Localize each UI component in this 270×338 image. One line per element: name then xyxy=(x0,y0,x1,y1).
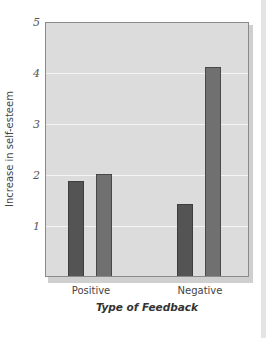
ytick-1: 1 xyxy=(28,220,40,233)
page-edge-strip xyxy=(261,0,266,338)
bar-positive-series2 xyxy=(96,174,112,276)
ytick-5: 5 xyxy=(28,16,40,29)
xtick-positive: Positive xyxy=(72,285,111,296)
ytick-4: 4 xyxy=(28,67,40,80)
ytick-3: 3 xyxy=(28,118,40,131)
x-axis-label: Type of Feedback xyxy=(96,301,198,313)
bar-negative-series2 xyxy=(205,67,221,276)
xtick-negative: Negative xyxy=(178,285,223,296)
bar-positive-series1 xyxy=(68,181,84,276)
y-axis-label: Increase in self-esteem xyxy=(4,91,15,207)
plot-area xyxy=(45,22,249,277)
bar-negative-series1 xyxy=(177,204,193,276)
ytick-2: 2 xyxy=(28,169,40,182)
